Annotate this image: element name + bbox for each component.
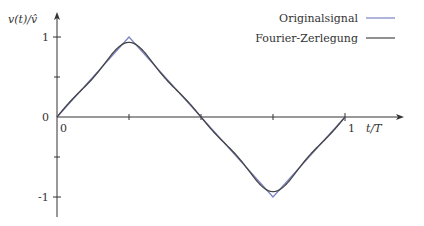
chart: v(t)/v̂ 1 0 -1 0 1 t/T Originalsignal Fo… bbox=[0, 0, 424, 226]
x-tick-label-1: 1 bbox=[348, 122, 355, 135]
legend: Originalsignal Fourier-Zerlegung bbox=[255, 12, 395, 45]
x-tick-label-0: 0 bbox=[60, 122, 67, 135]
legend-label-originalsignal: Originalsignal bbox=[279, 12, 358, 25]
y-tick-label-0: 0 bbox=[42, 111, 49, 124]
y-tick-label-1: 1 bbox=[42, 31, 49, 44]
legend-label-fourier-zerlegung: Fourier-Zerlegung bbox=[255, 32, 358, 45]
x-axis-label: t/T bbox=[366, 122, 383, 135]
y-axis-label: v(t)/v̂ bbox=[8, 13, 38, 26]
y-tick-label-minus-1: -1 bbox=[38, 191, 49, 204]
